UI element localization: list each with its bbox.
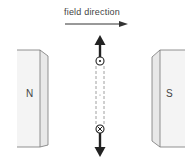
north-pole-label: N (26, 88, 33, 99)
south-pole-label: S (166, 88, 173, 99)
upward-force-arrow (95, 35, 106, 57)
downward-force-arrow (95, 133, 106, 157)
current-into-page-icon (96, 125, 104, 133)
coil-loop (96, 66, 104, 125)
field-direction-arrow (65, 21, 128, 27)
motor-principle-diagram (0, 0, 196, 167)
current-out-of-page-icon (96, 57, 104, 65)
